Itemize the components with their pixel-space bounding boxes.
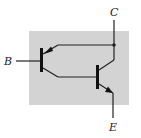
emitter-label: E	[108, 121, 117, 134]
pnp-base-bar	[40, 48, 43, 72]
npn-base-bar	[96, 65, 99, 89]
collector-label: C	[110, 6, 119, 19]
base-label: B	[3, 55, 12, 68]
circuit-diagram: C B E	[0, 0, 141, 138]
